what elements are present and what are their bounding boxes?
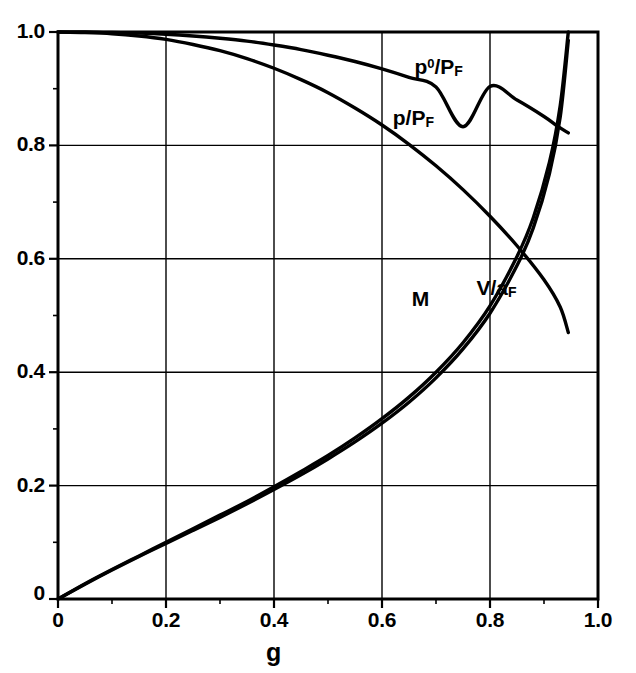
x-tick-label: 0.6: [352, 608, 412, 632]
plot-frame: [58, 32, 598, 599]
y-tick-label: 0: [34, 581, 45, 605]
x-tick-label: 0.8: [460, 608, 520, 632]
y-tick-label: 0.8: [17, 132, 45, 156]
annotation-p0PF: p0/PF: [414, 55, 462, 79]
x-tick-label: 0: [28, 608, 88, 632]
annotation-pPF: p/PF: [393, 106, 434, 130]
curve-V/aF: [58, 41, 568, 600]
curves-group: [58, 32, 568, 599]
minor-ticks-group: [49, 32, 598, 608]
annotation-VaF: V/aF: [477, 276, 517, 300]
x-axis-title: g: [266, 638, 281, 667]
figure-chart: 00.20.40.60.81.0 00.20.40.60.81.0 p0/PFp…: [0, 0, 636, 673]
annotation-M: M: [412, 287, 430, 311]
gridlines-group: [58, 32, 598, 599]
y-tick-label: 0.2: [17, 473, 45, 497]
plot-canvas: [0, 0, 636, 673]
y-tick-label: 1.0: [17, 19, 45, 43]
x-tick-label: 1.0: [568, 608, 628, 632]
y-tick-label: 0.6: [17, 246, 45, 270]
curve-M: [58, 32, 568, 599]
x-tick-label: 0.2: [136, 608, 196, 632]
x-tick-label: 0.4: [244, 608, 304, 632]
curve-p0/PF: [58, 32, 568, 133]
y-tick-label: 0.4: [17, 359, 45, 383]
